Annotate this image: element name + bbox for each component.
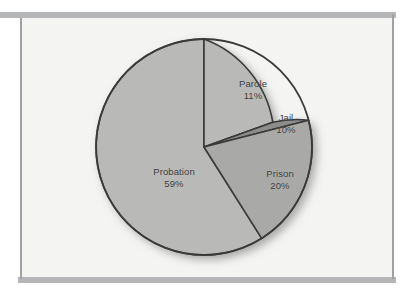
pie-label-prison: Prison 20%	[244, 168, 316, 191]
page-frame-bottom-bar	[18, 277, 396, 283]
pie-label-probation: Probation 59%	[132, 166, 216, 189]
pie-label-parole-value: 11%	[218, 90, 288, 102]
pie-label-parole-name: Parole	[218, 78, 288, 90]
pie-label-probation-name: Probation	[132, 166, 216, 178]
pie-label-jail-value: 10%	[258, 124, 314, 136]
pie-chart-svg	[22, 18, 392, 277]
pie-label-prison-name: Prison	[244, 168, 316, 180]
pie-label-jail-name: Jail	[258, 112, 314, 124]
page-frame-right-border	[392, 14, 394, 279]
pie-label-jail: Jail 10%	[258, 112, 314, 135]
pie-slices-group	[96, 39, 312, 255]
pie-label-probation-value: 59%	[132, 178, 216, 190]
pie-label-parole: Parole 11%	[218, 78, 288, 101]
figure-screenshot: Parole 11% Jail 10% Prison 20% Probation…	[0, 0, 414, 299]
pie-chart: Parole 11% Jail 10% Prison 20% Probation…	[22, 18, 392, 277]
pie-label-prison-value: 20%	[244, 180, 316, 192]
